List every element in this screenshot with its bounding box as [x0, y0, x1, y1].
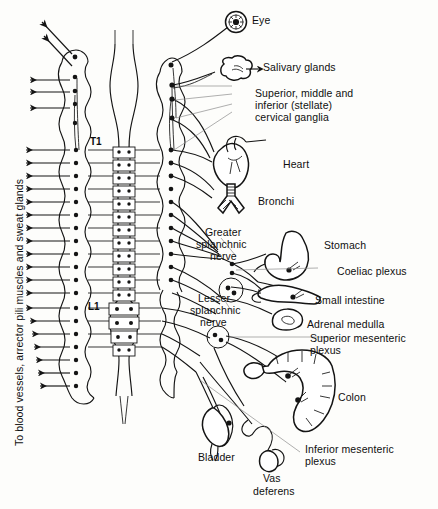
label-coeliac-plexus: Coeliac plexus — [337, 266, 407, 277]
label-greater-splanchnic-line1: Greater — [205, 227, 241, 238]
superior-mesenteric-ganglion — [207, 326, 229, 348]
label-colon: Colon — [338, 392, 366, 403]
label-lesser-splanchnic-line3: nerve — [200, 317, 227, 328]
right-ascending-fibres — [170, 68, 177, 150]
salivary-glands-organ — [221, 56, 258, 80]
heart-organ — [213, 136, 266, 188]
label-superior-mesenteric-line1: Superior mesenteric — [310, 333, 406, 344]
left-axis-label: To blood vessels, arrector pili muscles … — [14, 179, 25, 446]
right-sympathetic-chain — [135, 58, 185, 398]
label-adrenal-medulla: Adrenal medulla — [307, 319, 384, 330]
spinal-cord — [109, 30, 139, 424]
label-lesser-splanchnic-line2: splanchnic — [190, 305, 241, 316]
label-bronchi: Bronchi — [258, 196, 294, 207]
label-vas-deferens-line2: deferens — [253, 486, 295, 497]
label-heart: Heart — [283, 159, 309, 170]
label-salivary-glands: Salivary glands — [263, 62, 336, 73]
eye-organ — [226, 12, 247, 33]
label-small-intestine: Small intestine — [315, 295, 385, 306]
label-vas-deferens-line1: Vas — [263, 473, 281, 484]
label-superior-mesenteric-line2: plexus — [310, 345, 341, 356]
colon-organ — [244, 350, 335, 432]
sympathetic-nervous-system-diagram: To blood vessels, arrector pili muscles … — [0, 0, 438, 509]
left-sympathetic-chain — [26, 22, 113, 404]
label-inferior-mesenteric-line1: Inferior mesenteric — [305, 444, 394, 455]
efferent-arrows — [26, 22, 72, 386]
label-lesser-splanchnic-line1: Lesser — [198, 293, 230, 304]
label-stomach: Stomach — [324, 240, 366, 251]
vas-deferens-organ — [242, 420, 284, 472]
segment-label-t1: T1 — [90, 136, 102, 147]
label-greater-splanchnic-line3: nerve — [210, 251, 237, 262]
cord-segments — [109, 147, 139, 356]
label-bladder: Bladder — [198, 452, 235, 463]
small-intestine-organ — [252, 285, 320, 304]
adrenal-medulla-organ — [272, 309, 302, 330]
label-eye: Eye — [252, 15, 270, 26]
label-greater-splanchnic-line2: splanchnic — [196, 239, 247, 250]
label-cervical-ganglia-line3: cervical ganglia — [255, 112, 329, 123]
label-cervical-ganglia-line1: Superior, middle and — [255, 88, 353, 99]
label-inferior-mesenteric-line2: plexus — [305, 456, 336, 467]
right-chain-ganglia — [169, 63, 175, 283]
segment-label-l1: L1 — [88, 301, 100, 312]
bronchi-organ — [218, 184, 244, 213]
label-cervical-ganglia-line2: inferior (stellate) — [255, 100, 332, 111]
